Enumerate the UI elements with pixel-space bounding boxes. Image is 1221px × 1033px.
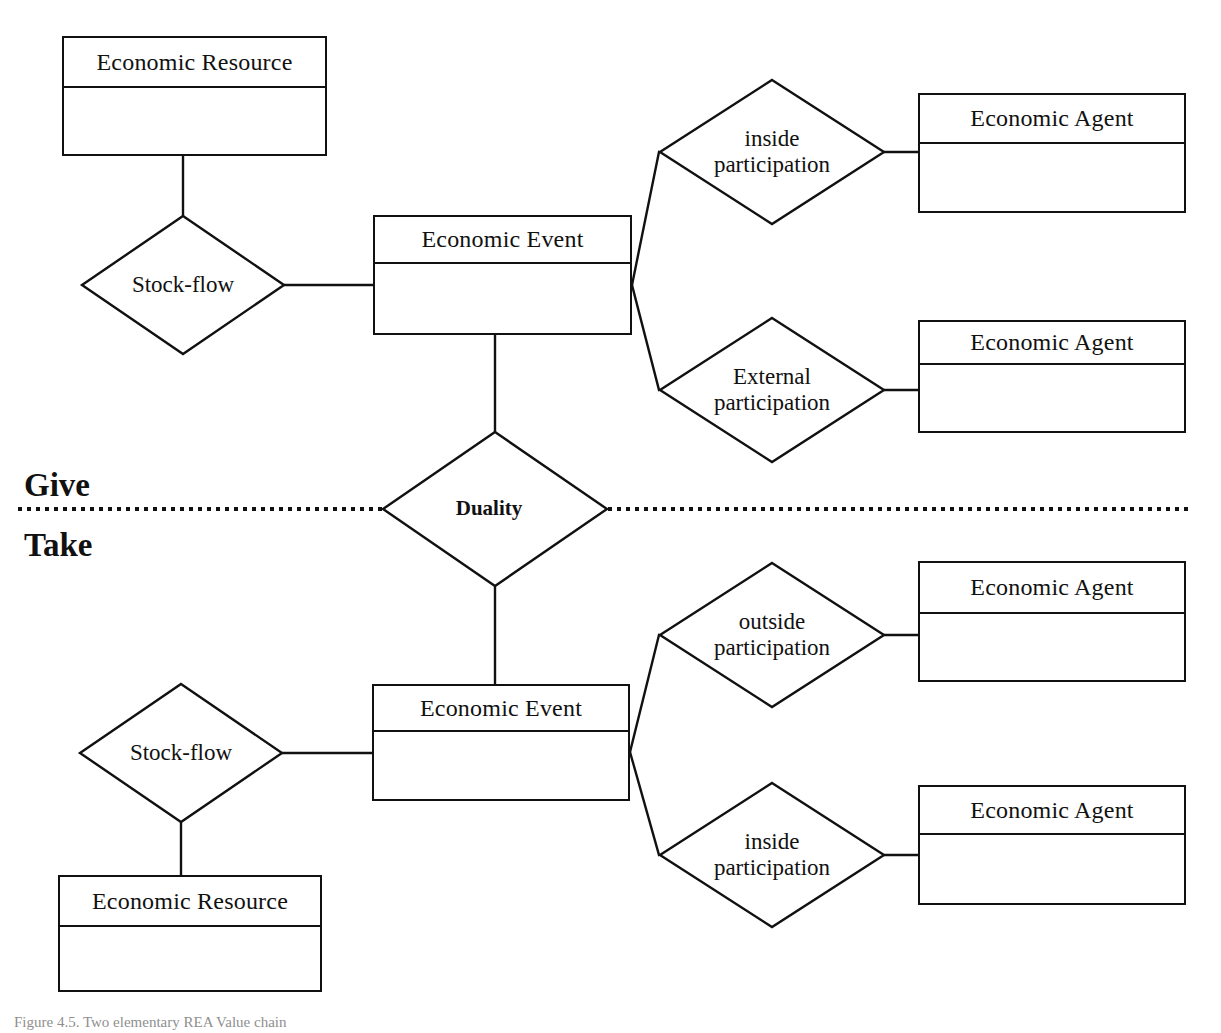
entity-name: Economic Event (374, 686, 628, 732)
diamond-shape (659, 782, 885, 928)
diamond-shape (382, 431, 608, 587)
entity-economic-agent-inside-give[interactable]: Economic Agent (918, 93, 1186, 213)
relationship-inside-participation-give[interactable]: inside participation (659, 79, 885, 225)
take-label: Take (24, 527, 92, 564)
relationship-inside-participation-take[interactable]: inside participation (659, 782, 885, 928)
diamond-shape (81, 215, 285, 355)
relationship-outside-participation-take[interactable]: outside participation (659, 562, 885, 708)
entity-economic-event-give[interactable]: Economic Event (373, 215, 632, 335)
entity-name: Economic Agent (920, 563, 1184, 614)
diamond-shape (659, 562, 885, 708)
entity-economic-resource-bottom[interactable]: Economic Resource (58, 875, 322, 992)
entity-economic-agent-outside-take[interactable]: Economic Agent (918, 561, 1186, 682)
er-diagram-canvas: Economic Resource Economic Event Economi… (0, 0, 1221, 1033)
relationship-external-participation-give[interactable]: External participation (659, 317, 885, 463)
entity-economic-agent-external-give[interactable]: Economic Agent (918, 320, 1186, 433)
entity-attribute-area (920, 365, 1184, 431)
relationship-stock-flow-take[interactable]: Stock-flow (79, 683, 283, 823)
entity-economic-agent-inside-take[interactable]: Economic Agent (918, 785, 1186, 905)
entity-attribute-area (375, 264, 630, 333)
relationship-stock-flow-give[interactable]: Stock-flow (81, 215, 285, 355)
diamond-shape (659, 317, 885, 463)
relationship-duality[interactable]: Duality (382, 431, 608, 587)
entity-name: Economic Event (375, 217, 630, 264)
connector-event-give-to-external (632, 285, 659, 390)
entity-attribute-area (64, 88, 325, 154)
entity-economic-resource-top[interactable]: Economic Resource (62, 36, 327, 156)
connector-event-give-to-inside (632, 152, 659, 285)
connector-event-take-to-outside (630, 635, 659, 752)
entity-attribute-area (374, 732, 628, 799)
entity-name: Economic Agent (920, 787, 1184, 835)
diamond-shape (659, 79, 885, 225)
entity-attribute-area (920, 144, 1184, 211)
entity-economic-event-take[interactable]: Economic Event (372, 684, 630, 801)
entity-name: Economic Resource (64, 38, 325, 88)
diamond-shape (79, 683, 283, 823)
connector-event-take-to-inside (630, 752, 659, 855)
entity-name: Economic Agent (920, 95, 1184, 144)
entity-name: Economic Agent (920, 322, 1184, 365)
entity-attribute-area (60, 927, 320, 990)
entity-name: Economic Resource (60, 877, 320, 927)
give-label: Give (24, 467, 90, 504)
figure-caption: Figure 4.5. Two elementary REA Value cha… (14, 1014, 287, 1031)
entity-attribute-area (920, 614, 1184, 680)
entity-attribute-area (920, 835, 1184, 903)
